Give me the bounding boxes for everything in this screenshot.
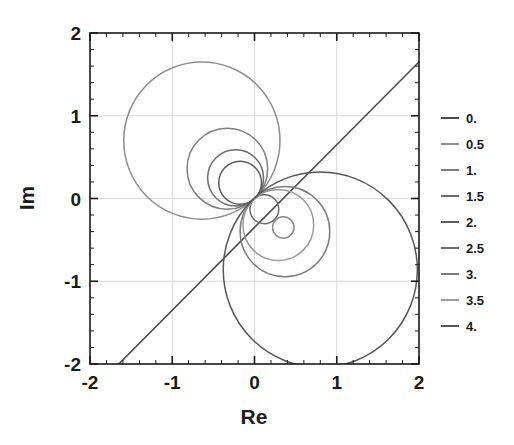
y-tick-label: 1 (70, 106, 81, 127)
x-tick-label: 2 (414, 372, 425, 393)
legend-label: 1.5 (466, 189, 484, 204)
legend-label: 3.5 (466, 293, 484, 308)
y-axis-title: Im (15, 186, 38, 211)
legend-label: 2. (466, 215, 477, 230)
x-tick-label: 0 (249, 372, 260, 393)
x-tick-label: -2 (82, 372, 99, 393)
x-axis-title: Re (241, 405, 268, 428)
legend-label: 0.5 (466, 137, 484, 152)
y-tick-label: -1 (64, 271, 81, 292)
x-tick-label: -1 (164, 372, 181, 393)
legend-label: 4. (466, 319, 477, 334)
x-tick-label: 1 (331, 372, 342, 393)
legend-label: 2.5 (466, 241, 484, 256)
legend-label: 1. (466, 163, 477, 178)
legend-label: 0. (466, 111, 477, 126)
y-tick-label: 0 (70, 189, 81, 210)
y-tick-label: -2 (64, 354, 81, 375)
complex-plane-plot: -2-1012-2-1012 Re Im 0.0.51.1.52.2.53.3.… (0, 0, 514, 445)
y-tick-label: 2 (70, 23, 81, 44)
legend-label: 3. (466, 267, 477, 282)
